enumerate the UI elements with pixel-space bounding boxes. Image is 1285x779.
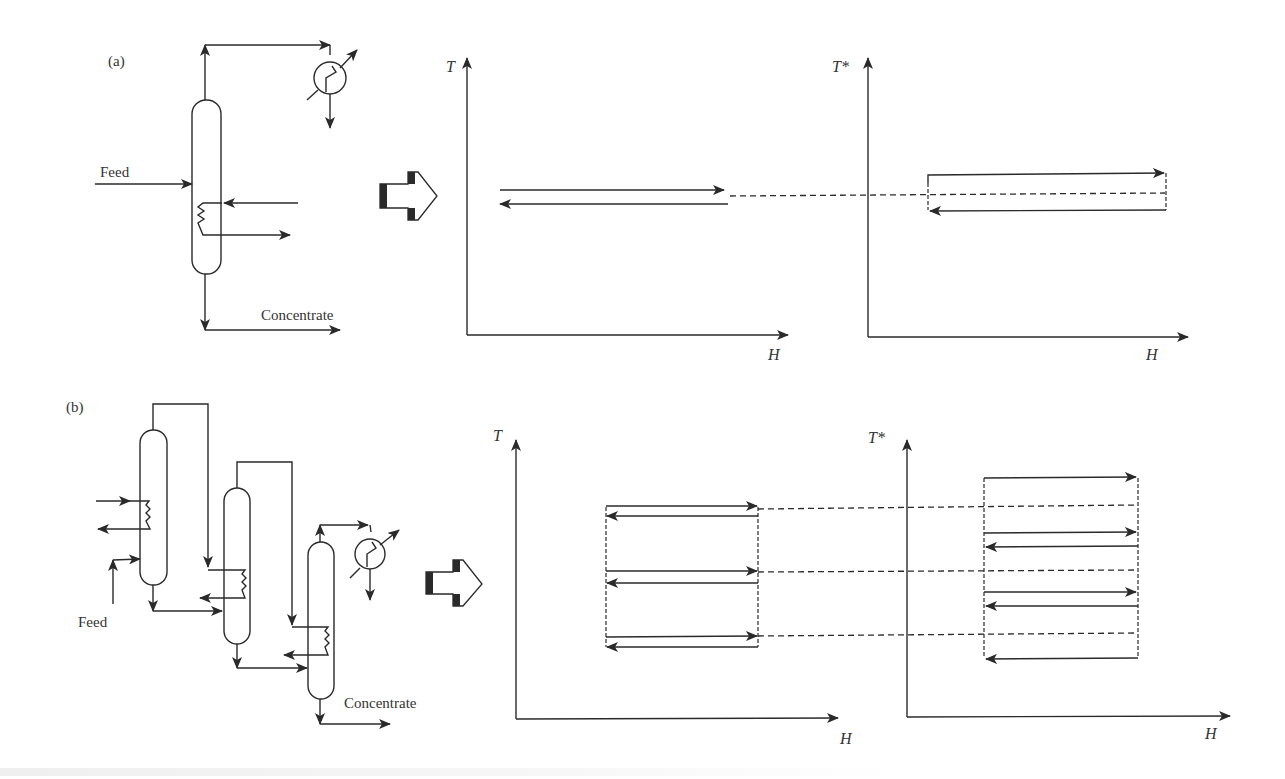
column-3-reboiler-coil-icon (284, 627, 329, 655)
feed-label: Feed (78, 614, 108, 630)
concentrate-label: Concentrate (261, 307, 334, 323)
column-1-reboiler-coil-icon (96, 501, 150, 529)
column-2 (224, 488, 250, 644)
plot-b-tstar-h: T* H (868, 429, 1230, 742)
x-axis-label: H (767, 346, 781, 363)
x-axis (907, 716, 1230, 717)
diagram-canvas: (a) Feed Concentrate (0, 0, 1285, 779)
concentrate-label: Concentrate (344, 695, 417, 711)
transform-arrow-icon (426, 560, 482, 606)
x-axis (516, 718, 838, 719)
plot-b-th: T H (493, 427, 853, 747)
panel-a: (a) Feed Concentrate (95, 45, 1188, 363)
plot-a-th: T H (446, 58, 788, 363)
feed-label: Feed (100, 164, 130, 180)
distillation-column (192, 100, 221, 274)
x-axis-label: H (1145, 346, 1159, 363)
temperature-link-dashed-1 (758, 505, 1137, 509)
reboiler-coil-icon (198, 203, 298, 235)
y-axis-label: T* (868, 429, 885, 446)
x-axis-label: H (839, 730, 853, 747)
column-1-vapor-line (153, 404, 208, 567)
condenser-icon (350, 530, 399, 600)
y-axis-label: T* (832, 58, 849, 75)
x-axis-label: H (1204, 725, 1218, 742)
column-3 (308, 542, 334, 699)
scan-edge-artifact (0, 768, 900, 776)
condenser-icon (307, 50, 357, 128)
column-2-reboiler-coil-icon (200, 570, 246, 598)
column-2-vapor-line (237, 462, 292, 625)
plot-a-tstar-h: T* H (832, 58, 1188, 363)
panel-a-label: (a) (108, 53, 125, 70)
y-axis-label: T (493, 427, 503, 444)
panel-b: (b) Feed (66, 399, 1230, 747)
temperature-link-dashed-2 (758, 570, 1137, 572)
temperature-link-dashed-3 (758, 633, 1137, 636)
transform-arrow-icon (380, 172, 437, 220)
y-axis-label: T (446, 58, 456, 75)
temperature-link-dashed (730, 193, 1165, 196)
column-1 (140, 430, 167, 585)
panel-b-label: (b) (66, 399, 84, 416)
